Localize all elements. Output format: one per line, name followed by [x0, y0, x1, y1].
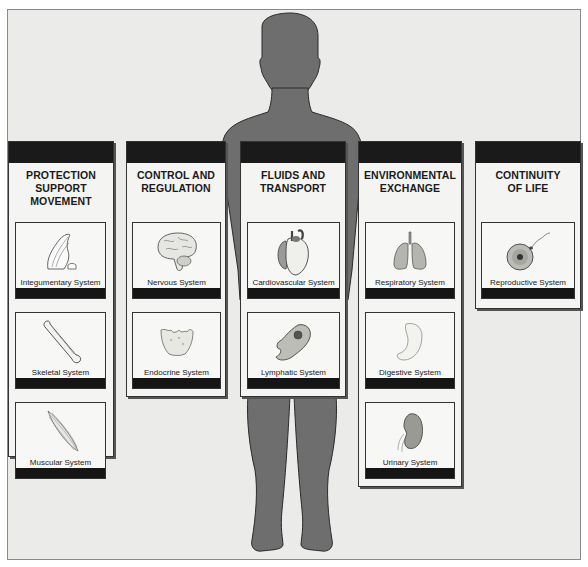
panel-header-bar	[127, 142, 225, 163]
kidney-icon	[366, 407, 454, 457]
thyroid-gland-icon	[133, 317, 220, 367]
card-footer-bar	[366, 468, 454, 478]
panel-title: CONTINUITY OF LIFE	[476, 169, 580, 195]
panel-title: ENVIRONMENTAL EXCHANGE	[359, 169, 461, 195]
system-card-lymphatic: Lymphatic System	[247, 312, 340, 389]
card-footer-bar	[16, 468, 105, 478]
system-card-endocrine: Endocrine System	[132, 312, 221, 389]
category-panel-continuity-of-life: CONTINUITY OF LIFE Reproductive System	[475, 141, 581, 309]
card-footer-bar	[366, 288, 454, 298]
lungs-icon	[366, 227, 454, 277]
system-card-respiratory: Respiratory System	[365, 222, 455, 299]
stomach-icon	[366, 317, 454, 367]
panel-header-bar	[359, 142, 461, 163]
card-footer-bar	[366, 378, 454, 388]
skin-finger-icon	[16, 227, 105, 277]
category-panel-protection-support-movement: PROTECTION SUPPORT MOVEMENT Integumentar…	[8, 141, 114, 457]
system-card-cardiovascular: Cardiovascular System	[247, 222, 340, 299]
panel-header-bar	[241, 142, 345, 163]
category-panel-fluids-transport: FLUIDS AND TRANSPORT Cardiovascular Syst…	[240, 141, 346, 397]
heart-icon	[248, 227, 339, 277]
muscle-icon	[16, 407, 105, 457]
egg-sperm-icon	[482, 227, 574, 277]
system-card-integumentary: Integumentary System	[15, 222, 106, 299]
card-footer-bar	[16, 378, 105, 388]
card-footer-bar	[248, 288, 339, 298]
card-footer-bar	[133, 378, 220, 388]
brain-icon	[133, 227, 220, 277]
system-card-muscular: Muscular System	[15, 402, 106, 479]
panel-header-bar	[9, 142, 113, 163]
lymphocyte-icon	[248, 317, 339, 367]
category-panel-control-regulation: CONTROL AND REGULATION Nervous System En…	[126, 141, 226, 397]
system-card-nervous: Nervous System	[132, 222, 221, 299]
system-card-skeletal: Skeletal System	[15, 312, 106, 389]
card-footer-bar	[482, 288, 574, 298]
panel-title: CONTROL AND REGULATION	[127, 169, 225, 195]
panel-header-bar	[476, 142, 580, 163]
panel-title: PROTECTION SUPPORT MOVEMENT	[9, 169, 113, 208]
category-panel-environmental-exchange: ENVIRONMENTAL EXCHANGE Respiratory Syste…	[358, 141, 462, 487]
card-footer-bar	[16, 288, 105, 298]
card-footer-bar	[248, 378, 339, 388]
panel-title: FLUIDS AND TRANSPORT	[241, 169, 345, 195]
system-card-urinary: Urinary System	[365, 402, 455, 479]
card-footer-bar	[133, 288, 220, 298]
system-card-digestive: Digestive System	[365, 312, 455, 389]
system-card-reproductive: Reproductive System	[481, 222, 575, 299]
bone-icon	[16, 317, 105, 367]
